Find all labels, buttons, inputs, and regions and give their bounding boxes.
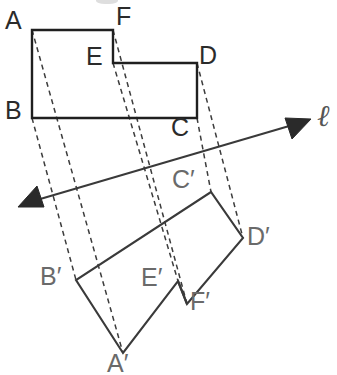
vertex-label-E: E <box>86 44 103 69</box>
image-edge-Eprime-Fprime <box>178 281 187 304</box>
vertex-label-B: B <box>5 98 22 123</box>
reflection-line-group <box>18 118 311 207</box>
vertex-label-F-prime: F′ <box>190 289 210 314</box>
arrowhead-right-icon <box>285 118 311 139</box>
geometry-canvas <box>0 0 337 375</box>
vertex-label-D-prime: D′ <box>247 224 270 249</box>
vertex-label-C: C <box>171 115 189 140</box>
vertex-label-A-prime: A′ <box>107 351 128 375</box>
vertex-label-E-prime: E′ <box>141 265 162 290</box>
connector-C-Cprime <box>197 118 211 192</box>
vertex-label-A: A <box>5 8 22 33</box>
vertex-label-B-prime: B′ <box>40 264 61 289</box>
geometry-figure: A F E D C B A′ B′ C′ D′ E′ F′ ℓ <box>0 0 337 375</box>
connector-A-Aprime <box>32 30 123 353</box>
arrowhead-left-icon <box>18 186 44 207</box>
vertex-label-D: D <box>199 43 217 68</box>
preimage-polygon <box>32 30 197 118</box>
reflection-line-label: ℓ <box>317 101 330 131</box>
vertex-label-F: F <box>116 4 131 29</box>
vertex-label-C-prime: C′ <box>172 167 195 192</box>
